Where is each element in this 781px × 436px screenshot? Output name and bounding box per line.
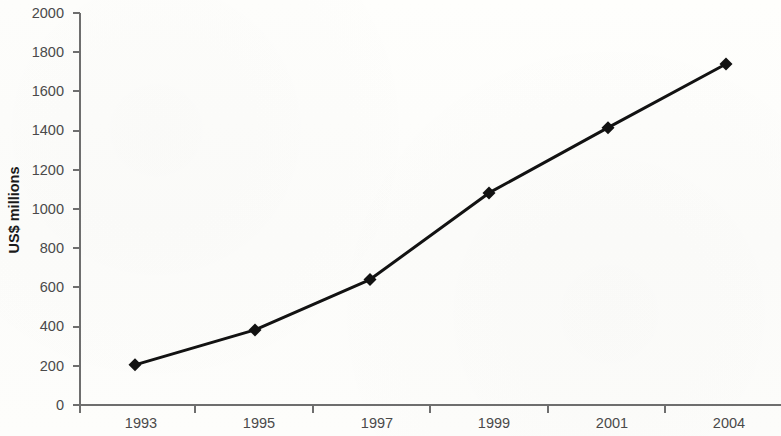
y-axis-tick-label: 800 bbox=[40, 240, 64, 256]
data-point-marker: 2004: 1740 bbox=[720, 57, 733, 70]
x-axis-tick-label: 1993 bbox=[125, 415, 157, 431]
y-axis-tick-label: 1000 bbox=[32, 201, 64, 217]
data-point-markers: 1993: 2051995: 3831997: 6401999: 1082200… bbox=[129, 57, 733, 371]
data-point-marker: 1995: 383 bbox=[249, 323, 262, 336]
y-axis-tick-label: 1800 bbox=[32, 44, 64, 60]
y-axis-tick-label: 1400 bbox=[32, 122, 64, 138]
data-point-marker: 2001: 1415 bbox=[602, 121, 615, 134]
x-axis-tick-label: 1999 bbox=[478, 415, 510, 431]
x-axis-tick-label: 1995 bbox=[243, 415, 275, 431]
y-axis-tick-label: 400 bbox=[40, 318, 64, 334]
y-axis-tick-label: 0 bbox=[56, 397, 64, 413]
x-axis-tick-label: 2001 bbox=[596, 415, 628, 431]
x-axis-ticks bbox=[80, 405, 665, 413]
y-axis-tick-labels: 0200400600800100012001400160018002000 bbox=[32, 5, 64, 413]
y-axis-tick-label: 2000 bbox=[32, 5, 64, 21]
line-chart: 0200400600800100012001400160018002000 19… bbox=[0, 0, 781, 436]
x-axis-tick-label: 1997 bbox=[361, 415, 393, 431]
y-axis-tick-label: 200 bbox=[40, 358, 64, 374]
chart-screenshot: 0200400600800100012001400160018002000 19… bbox=[0, 0, 781, 436]
data-point-marker: 1993: 205 bbox=[129, 358, 142, 371]
y-axis-tick-label: 600 bbox=[40, 279, 64, 295]
x-axis-tick-label: 2004 bbox=[713, 415, 745, 431]
data-series-line bbox=[135, 64, 726, 365]
y-axis-tick-label: 1200 bbox=[32, 162, 64, 178]
y-axis-title: US$ millions bbox=[6, 166, 22, 253]
y-axis-tick-label: 1600 bbox=[32, 83, 64, 99]
x-axis-tick-labels: 199319951997199920012004 bbox=[125, 415, 745, 431]
